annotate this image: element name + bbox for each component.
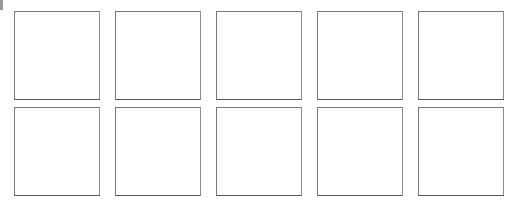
placeholder-box-label (419, 108, 503, 195)
placeholder-box[interactable] (115, 107, 201, 196)
placeholder-box-label (116, 12, 200, 99)
placeholder-box[interactable] (418, 11, 504, 100)
placeholder-box-label (15, 12, 99, 99)
placeholder-box-label (318, 108, 402, 195)
placeholder-box-label (217, 108, 301, 195)
placeholder-box[interactable] (216, 11, 302, 100)
placeholder-box[interactable] (14, 107, 100, 196)
placeholder-box-label (419, 12, 503, 99)
placeholder-box-label (217, 12, 301, 99)
placeholder-box-label (318, 12, 402, 99)
clipped-edge-sliver (0, 0, 3, 10)
placeholder-grid (14, 11, 512, 196)
placeholder-box[interactable] (115, 11, 201, 100)
placeholder-box-label (15, 108, 99, 195)
placeholder-box[interactable] (14, 11, 100, 100)
placeholder-box[interactable] (216, 107, 302, 196)
placeholder-box[interactable] (418, 107, 504, 196)
placeholder-box[interactable] (317, 107, 403, 196)
placeholder-box[interactable] (317, 11, 403, 100)
page-root: { "page": { "background_color": "#ffffff… (0, 0, 523, 212)
placeholder-box-label (116, 108, 200, 195)
